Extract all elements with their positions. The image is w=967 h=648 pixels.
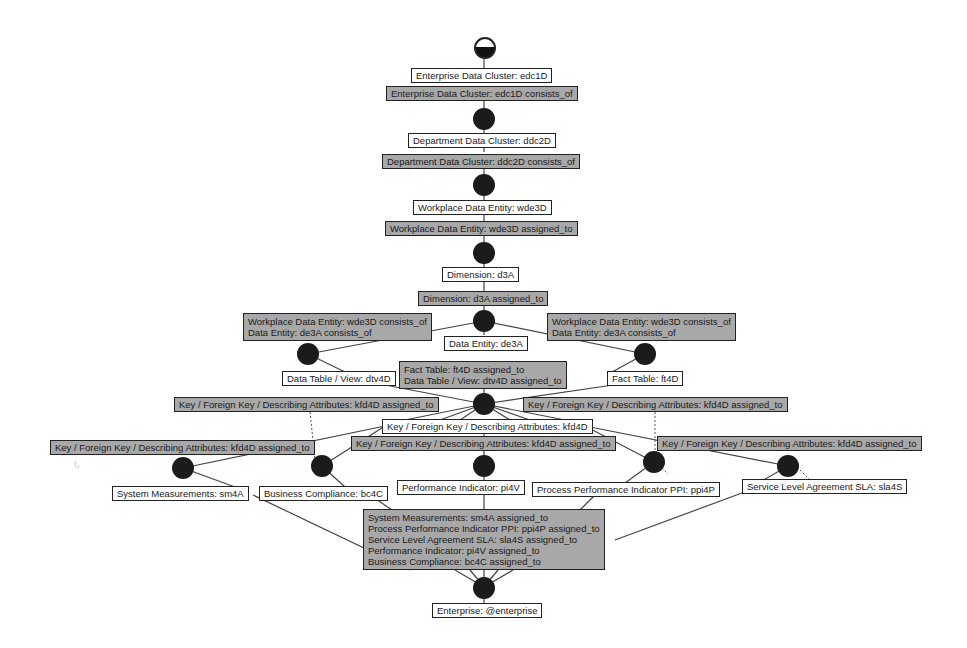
entity-system-measurements[interactable]: System Measurements: sm4A <box>112 486 249 501</box>
junction-node-icon[interactable] <box>311 455 333 477</box>
relation-ddc2d-consists-of[interactable]: Department Data Cluster: ddc2D consists_… <box>382 154 580 169</box>
entity-key-foreign-key-describing-attributes[interactable]: Key / Foreign Key / Describing Attribute… <box>382 419 593 434</box>
relation-kfd4d-assigned-to-far-left[interactable]: Key / Foreign Key / Describing Attribute… <box>50 440 315 455</box>
entity-dimension[interactable]: Dimension: d3A <box>442 267 519 282</box>
start-node-icon[interactable] <box>474 37 496 59</box>
relation-d3a-assigned-to[interactable]: Dimension: d3A assigned_to <box>418 291 548 306</box>
junction-node-icon[interactable] <box>473 310 495 332</box>
entity-department-data-cluster[interactable]: Department Data Cluster: ddc2D <box>408 133 556 148</box>
entity-workplace-data-entity[interactable]: Workplace Data Entity: wde3D <box>413 200 552 215</box>
junction-node-icon[interactable] <box>777 455 799 477</box>
entity-data-table-view[interactable]: Data Table / View: dtv4D <box>282 371 396 386</box>
junction-node-icon[interactable] <box>172 457 194 479</box>
entity-business-compliance[interactable]: Business Compliance: bc4C <box>259 486 388 501</box>
diagram-canvas: Enterprise Data Cluster: edc1D Enterpris… <box>0 0 967 648</box>
entity-performance-indicator[interactable]: Performance Indicator: pi4V <box>397 480 525 495</box>
relation-kfd4d-assigned-to-upper-left[interactable]: Key / Foreign Key / Describing Attribute… <box>174 397 439 412</box>
relation-edc1d-consists-of[interactable]: Enterprise Data Cluster: edc1D consists_… <box>386 86 578 101</box>
entity-process-performance-indicator[interactable]: Process Performance Indicator PPI: ppi4P <box>532 482 720 497</box>
junction-node-icon[interactable] <box>473 242 495 264</box>
junction-node-icon[interactable] <box>297 343 319 365</box>
junction-node-icon[interactable] <box>473 455 495 477</box>
relation-wde3d-de3a-consists-of-left[interactable]: Workplace Data Entity: wde3D consists_of… <box>243 313 432 341</box>
relation-wde3d-de3a-consists-of-right[interactable]: Workplace Data Entity: wde3D consists_of… <box>547 313 736 341</box>
junction-node-icon[interactable] <box>473 174 495 196</box>
relation-ft4d-dtv4d-assigned-to[interactable]: Fact Table: ft4D assigned_to Data Table … <box>399 361 567 389</box>
relation-kfd4d-assigned-to-upper-right[interactable]: Key / Foreign Key / Describing Attribute… <box>523 397 788 412</box>
junction-node-icon[interactable] <box>473 108 495 130</box>
relation-final-assigned-to[interactable]: System Measurements: sm4A assigned_to Pr… <box>363 509 605 570</box>
junction-node-icon[interactable] <box>473 393 495 415</box>
junction-node-icon[interactable] <box>643 451 665 473</box>
junction-node-icon[interactable] <box>634 343 656 365</box>
entity-data-entity[interactable]: Data Entity: de3A <box>444 336 528 351</box>
relation-wde3d-assigned-to[interactable]: Workplace Data Entity: wde3D assigned_to <box>385 221 578 236</box>
relation-kfd4d-assigned-to-center[interactable]: Key / Foreign Key / Describing Attribute… <box>351 436 616 451</box>
entity-fact-table[interactable]: Fact Table: ft4D <box>607 371 683 386</box>
entity-enterprise-data-cluster[interactable]: Enterprise Data Cluster: edc1D <box>411 68 552 83</box>
entity-service-level-agreement[interactable]: Service Level Agreement SLA: sla4S <box>742 479 907 494</box>
stray-mark: fₓ <box>74 460 79 470</box>
entity-enterprise[interactable]: Enterprise: @enterprise <box>432 603 542 618</box>
end-junction-node-icon[interactable] <box>473 577 495 599</box>
relation-kfd4d-assigned-to-far-right[interactable]: Key / Foreign Key / Describing Attribute… <box>657 436 922 451</box>
